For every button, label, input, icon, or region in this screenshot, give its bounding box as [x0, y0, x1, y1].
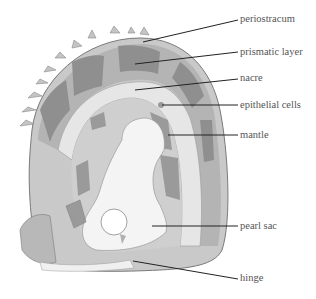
label-periostracum: periostracum [240, 13, 295, 25]
leader-periostracum [143, 20, 238, 42]
hinge-region [20, 215, 56, 264]
label-nacre: nacre [240, 72, 263, 84]
label-prismatic-layer: prismatic layer [240, 46, 303, 58]
label-epithelial-cells: epithelial cells [240, 99, 301, 111]
label-mantle: mantle [240, 129, 269, 141]
oyster-cross-section-diagram [0, 0, 316, 299]
label-pearl-sac: pearl sac [240, 220, 277, 232]
label-hinge: hinge [240, 272, 263, 284]
pearl [101, 209, 127, 235]
